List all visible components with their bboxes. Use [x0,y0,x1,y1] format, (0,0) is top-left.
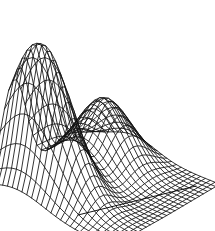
mesh-line [70,98,195,199]
mesh-line [94,176,200,231]
surface-mesh-plot [0,0,215,231]
wireframe-surface-figure [0,0,215,231]
mesh-wireframe [0,43,215,231]
